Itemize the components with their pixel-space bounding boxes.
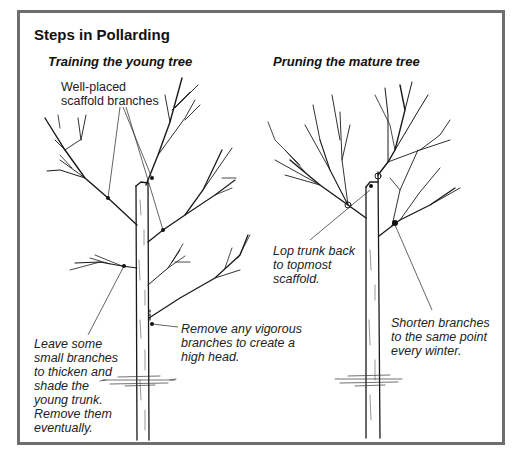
mature-tree-trunk (366, 172, 380, 438)
branch (378, 85, 405, 175)
branch (149, 235, 248, 318)
branch (45, 118, 137, 225)
young-tree-trunk (136, 183, 149, 440)
annotation-leave-small-branches: Leave some small branches to thicken and… (34, 337, 118, 435)
annotation-shorten-branches: Shorten branches to the same point every… (391, 316, 490, 358)
branch (148, 150, 222, 242)
annotation-scaffold-branches: Well-placed scaffold branches (61, 80, 159, 108)
branch (148, 250, 180, 285)
annotation-lop-trunk: Lop trunk back to topmost scaffold. (273, 244, 355, 286)
branch (379, 188, 455, 236)
annotation-remove-vigorous: Remove any vigorous branches to create a… (181, 322, 302, 364)
